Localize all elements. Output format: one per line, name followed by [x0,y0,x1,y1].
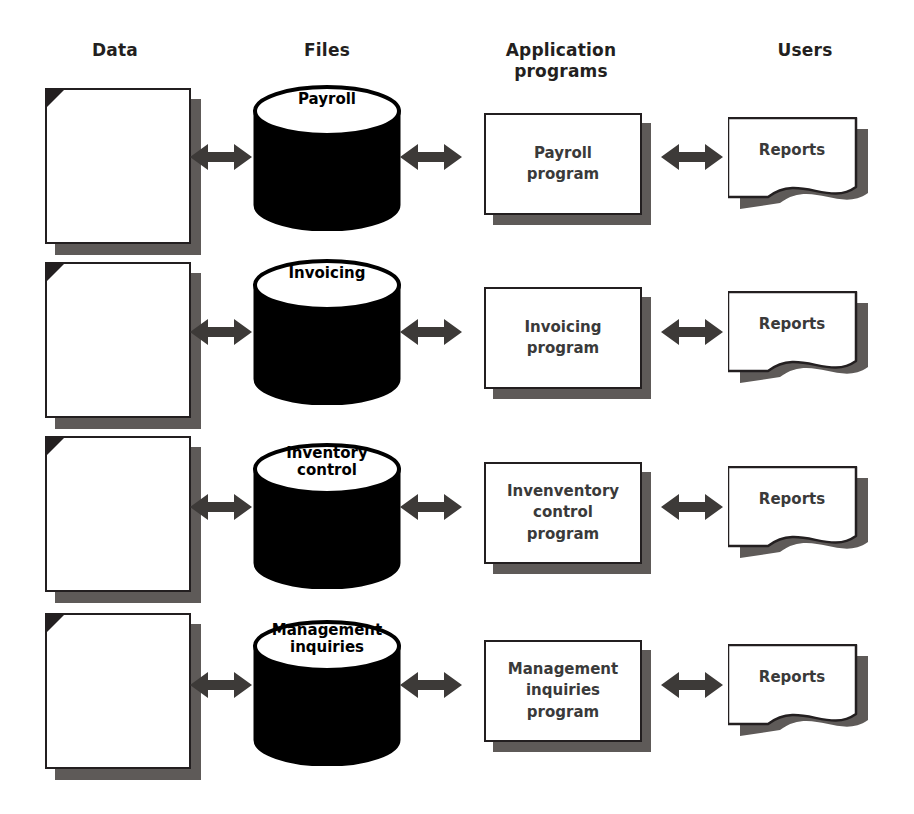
column-header-data: Data [45,40,185,61]
file-cylinder-inventory-control: Inventory control [252,443,402,589]
box-face: Invoicing program [484,287,642,389]
arrow-programs-to-users-management-inquiries [661,668,723,702]
arrow-data-to-files-inventory-control [190,490,252,524]
arrow-programs-to-users-inventory-control [661,490,723,524]
program-box-label: Invenventory control program [507,481,619,545]
data-document-payroll [45,88,193,246]
box-face: Payroll program [484,113,642,215]
arrow-data-to-files-payroll [190,140,252,174]
arrow-files-to-programs-management-inquiries [400,668,462,702]
data-document-inventory-control [45,436,193,594]
reports-document-management-inquiries: Reports [728,644,868,748]
arrow-programs-to-users-payroll [661,140,723,174]
document-page [45,613,191,769]
program-box-label: Payroll program [527,143,599,186]
arrow-files-to-programs-invoicing [400,315,462,349]
diagram-canvas: Data Files Application programs Users Pa… [0,0,914,814]
arrow-files-to-programs-payroll [400,140,462,174]
file-cylinder-invoicing: Invoicing [252,259,402,405]
file-cylinder-payroll: Payroll [252,85,402,231]
arrow-data-to-files-invoicing [190,315,252,349]
document-page [45,262,191,418]
document-page [45,436,191,592]
arrow-data-to-files-management-inquiries [190,668,252,702]
program-box-management-inquiries: Management inquiries program [484,640,651,752]
arrow-files-to-programs-inventory-control [400,490,462,524]
column-header-files: Files [257,40,397,61]
box-face: Management inquiries program [484,640,642,742]
box-face: Invenventory control program [484,462,642,564]
program-box-invoicing: Invoicing program [484,287,651,399]
data-document-management-inquiries [45,613,193,771]
data-document-invoicing [45,262,193,420]
reports-document-invoicing: Reports [728,291,868,395]
document-page [45,88,191,244]
reports-document-inventory-control: Reports [728,466,868,570]
file-cylinder-management-inquiries: Management inquiries [252,620,402,766]
program-box-label: Management inquiries program [508,659,618,723]
program-box-inventory-control: Invenventory control program [484,462,651,574]
reports-document-payroll: Reports [728,117,868,221]
column-header-application-programs: Application programs [486,40,636,83]
program-box-payroll: Payroll program [484,113,651,225]
column-header-users: Users [735,40,875,61]
program-box-label: Invoicing program [525,317,602,360]
arrow-programs-to-users-invoicing [661,315,723,349]
